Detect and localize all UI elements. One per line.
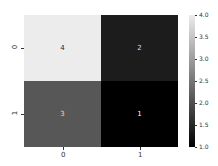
heatmap-cell-0-1: 2 [101,15,178,81]
colorbar-tick-mark [195,125,197,126]
x-tick-mark-0 [63,147,64,150]
y-tick-mark-1 [21,114,24,115]
x-tick-label-0: 0 [61,151,65,159]
y-tick-label-1: 1 [11,111,19,115]
colorbar-tick-mark [195,37,197,38]
y-tick-mark-0 [21,48,24,49]
y-tick-label-0: 0 [11,45,19,49]
cell-annotation: 1 [137,110,141,118]
colorbar-tick-1-5: 1.5 [199,121,209,128]
colorbar-tick-mark [195,147,197,148]
colorbar-tick-mark [195,59,197,60]
heatmap-cell-1-1: 1 [101,81,178,147]
heatmap-plot-area: 4 2 3 1 [24,15,178,147]
heatmap-cell-0-0: 4 [24,15,101,81]
x-tick-mark-1 [140,147,141,150]
x-tick-label-1: 1 [138,151,142,159]
cell-annotation: 2 [137,44,141,52]
colorbar-tick-4-0: 4.0 [199,11,209,18]
colorbar-tick-mark [195,15,197,16]
cell-annotation: 4 [60,44,64,52]
colorbar-tick-3-5: 3.5 [199,33,209,40]
colorbar-tick-2-5: 2.5 [199,77,209,84]
cell-annotation: 3 [60,110,64,118]
heatmap-cell-1-0: 3 [24,81,101,147]
colorbar-tick-3-0: 3.0 [199,55,209,62]
colorbar-tick-1-0: 1.0 [199,143,209,150]
colorbar-tick-2-0: 2.0 [199,99,209,106]
colorbar-tick-mark [195,81,197,82]
colorbar-tick-mark [195,103,197,104]
